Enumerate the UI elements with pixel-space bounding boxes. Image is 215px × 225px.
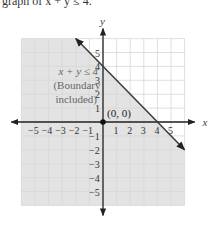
x-tick-label: −5 bbox=[28, 125, 39, 136]
x-tick-label: 3 bbox=[141, 125, 146, 136]
x-tick-label: −4 bbox=[42, 125, 53, 136]
x-tick-label: 2 bbox=[127, 125, 132, 136]
y-tick-label: 1 bbox=[95, 103, 100, 114]
region-label-line: x + y ≤ 4 bbox=[57, 65, 98, 77]
x-axis-label: x bbox=[202, 116, 208, 128]
x-tick-label: 1 bbox=[114, 125, 119, 136]
region-label-line: (Boundary bbox=[53, 79, 101, 92]
test-point-label: (0, 0) bbox=[107, 107, 131, 120]
y-tick-label: 5 bbox=[95, 48, 100, 59]
y-tick-label: −4 bbox=[89, 173, 100, 184]
y-tick-label: −3 bbox=[89, 159, 100, 170]
inequality-graph: xy−5−4−3−2−112345−5−4−3−2−112345x + y ≤ … bbox=[0, 0, 215, 225]
x-tick-label: −2 bbox=[69, 125, 80, 136]
y-axis-label: y bbox=[99, 15, 105, 27]
x-tick-label: 4 bbox=[154, 125, 159, 136]
y-tick-label: −2 bbox=[89, 145, 100, 156]
x-tick-label: −3 bbox=[55, 125, 66, 136]
y-tick-label: −5 bbox=[89, 187, 100, 198]
region-label-line: included) bbox=[55, 93, 97, 106]
y-tick-label: −1 bbox=[89, 131, 100, 142]
test-point-marker bbox=[100, 119, 106, 125]
